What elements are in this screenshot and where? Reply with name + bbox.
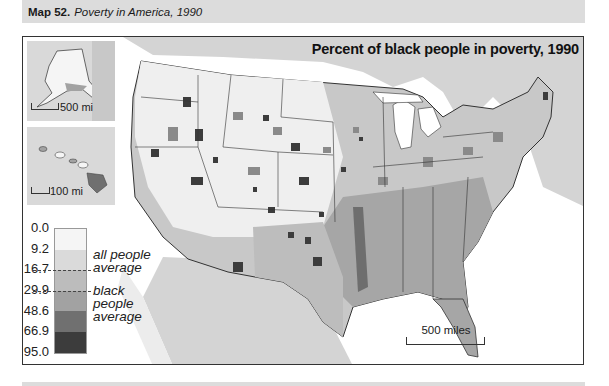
legend-swatch-5 [55, 311, 86, 332]
map-header: Map 52. Poverty in America, 1990 [22, 0, 585, 23]
all-people-average-label: all people average [93, 248, 151, 274]
main-scalebar [406, 337, 485, 345]
legend-swatch-2 [55, 250, 86, 271]
map-subtitle: Poverty in America, 1990 [74, 6, 202, 18]
legend-tick: 9.2 [22, 241, 49, 256]
legend-tick: 95.0 [22, 344, 49, 359]
legend-swatch-6 [55, 332, 86, 353]
all-people-average-line [33, 270, 91, 271]
alaska-scale-label: 500 mi [60, 101, 93, 113]
hawaii-scalebar [31, 187, 50, 194]
black-people-average-line [33, 291, 91, 292]
legend-tick: 0.0 [22, 220, 49, 235]
legend-tick: 66.9 [22, 323, 49, 338]
legend-swatch-1 [55, 229, 86, 250]
footer-bar [22, 382, 585, 386]
legend-tick: 16.7 [22, 261, 49, 276]
alaska-inset: 500 mi [27, 41, 115, 121]
map-title: Percent of black people in poverty, 1990 [312, 41, 579, 57]
legend-tick: 48.6 [22, 303, 49, 318]
black-people-average-label: black people average [93, 284, 153, 323]
legend-swatch-3 [55, 270, 86, 291]
map-frame: Percent of black people in poverty, 1990… [22, 36, 584, 365]
main-scale-label: 500 miles [407, 324, 485, 336]
hawaii-scale-label: 100 mi [50, 185, 83, 197]
legend: 0.0 9.2 16.7 29.9 48.6 66.9 95.0 all peo… [23, 224, 153, 364]
legend-swatch-4 [55, 291, 86, 312]
alaska-scalebar [31, 103, 59, 110]
legend-tick: 29.9 [22, 282, 49, 297]
map-number: Map 52. [28, 6, 70, 18]
hawaii-inset: 100 mi [27, 127, 115, 205]
